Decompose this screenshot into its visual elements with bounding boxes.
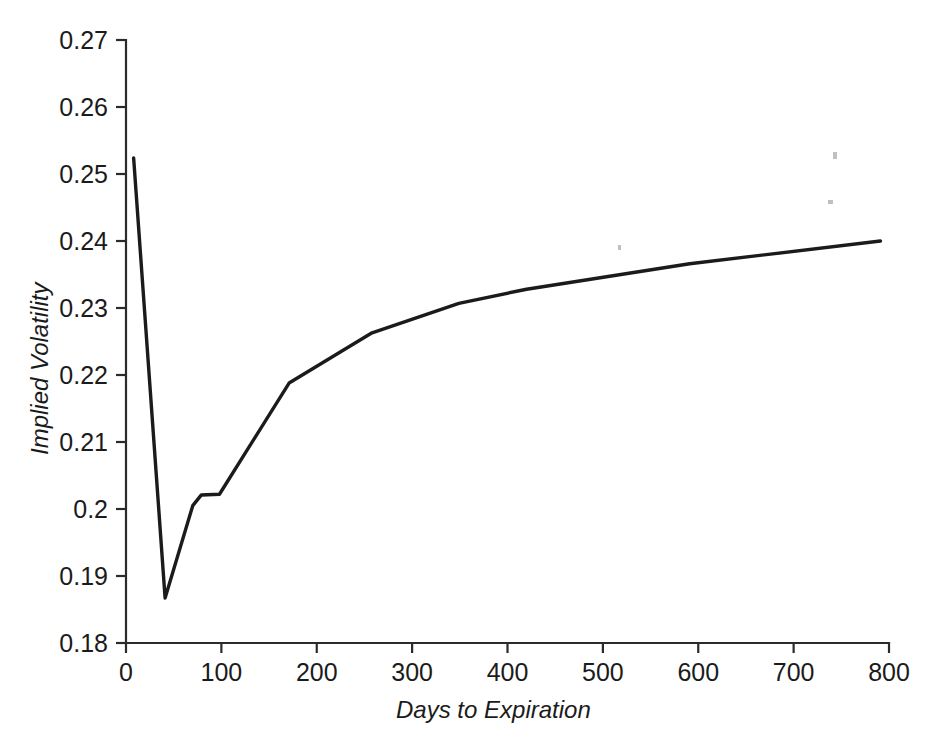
y-tick-label: 0.26	[59, 93, 108, 121]
data-series	[134, 158, 881, 598]
y-tick-label: 0.22	[59, 361, 108, 389]
x-tick-label: 100	[201, 658, 243, 686]
y-tick-label: 0.25	[59, 160, 108, 188]
implied-volatility-chart: 0.180.190.20.210.220.230.240.250.260.27 …	[0, 0, 944, 738]
x-axis: 0100200300400500600700800	[119, 643, 910, 686]
y-axis-title: Implied Volatility	[26, 280, 53, 455]
scan-speck	[833, 152, 837, 159]
y-tick-label: 0.23	[59, 294, 108, 322]
y-tick-label: 0.2	[73, 495, 108, 523]
x-tick-label: 400	[487, 658, 529, 686]
y-tick-label: 0.18	[59, 629, 108, 657]
scan-artifacts	[618, 152, 837, 250]
y-tick-label: 0.21	[59, 428, 108, 456]
x-tick-label: 500	[582, 658, 624, 686]
x-tick-label: 800	[868, 658, 910, 686]
y-tick-label: 0.27	[59, 26, 108, 54]
x-tick-label: 0	[119, 658, 133, 686]
series-path	[134, 158, 881, 598]
scan-speck	[618, 245, 621, 250]
x-tick-label: 600	[677, 658, 719, 686]
x-tick-label: 300	[391, 658, 433, 686]
chart-container: 0.180.190.20.210.220.230.240.250.260.27 …	[0, 0, 944, 738]
x-tick-label: 200	[296, 658, 338, 686]
y-axis: 0.180.190.20.210.220.230.240.250.260.27	[59, 26, 126, 657]
y-tick-label: 0.19	[59, 562, 108, 590]
y-tick-label: 0.24	[59, 227, 108, 255]
x-axis-title: Days to Expiration	[396, 696, 591, 723]
x-tick-label: 700	[773, 658, 815, 686]
scan-speck	[828, 200, 833, 204]
